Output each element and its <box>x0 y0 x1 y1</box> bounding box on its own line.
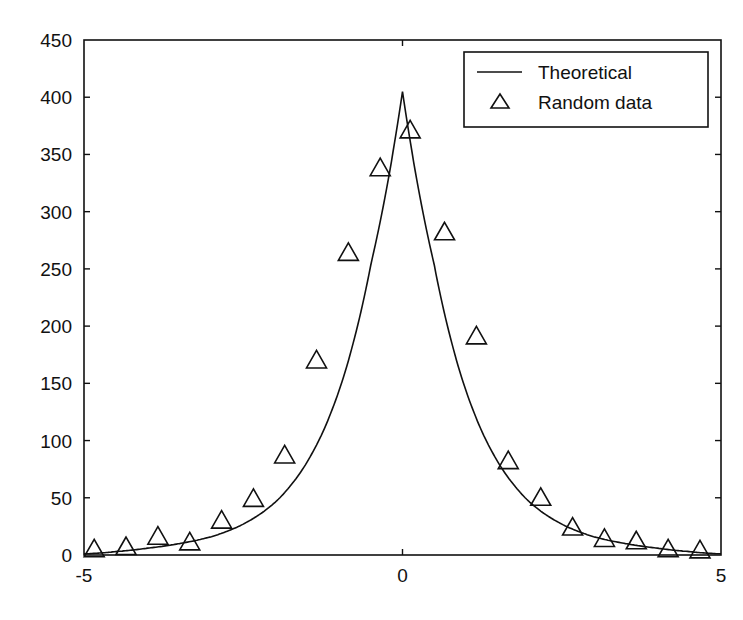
y-tick-label: 400 <box>40 87 72 108</box>
x-tick-label: 5 <box>716 565 727 586</box>
x-tick-label: -5 <box>76 565 93 586</box>
y-tick-label: 50 <box>51 488 72 509</box>
y-tick-label: 100 <box>40 431 72 452</box>
y-tick-label: 450 <box>40 30 72 51</box>
legend-label-theoretical: Theoretical <box>538 62 632 83</box>
legend: Theoretical Random data <box>464 52 708 127</box>
chart: 050100150200250300350400450 -505 Theoret… <box>0 0 743 620</box>
y-tick-label: 150 <box>40 373 72 394</box>
y-tick-label: 200 <box>40 316 72 337</box>
y-tick-label: 250 <box>40 259 72 280</box>
y-tick-label: 350 <box>40 144 72 165</box>
x-tick-label: 0 <box>397 565 408 586</box>
y-tick-label: 0 <box>61 545 72 566</box>
legend-label-random-data: Random data <box>538 92 653 113</box>
y-tick-label: 300 <box>40 202 72 223</box>
